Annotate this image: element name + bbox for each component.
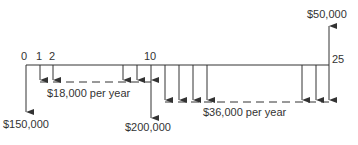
label-150000: $150,000 <box>3 118 49 130</box>
label-50000: $50,000 <box>307 8 347 20</box>
label-18000-per-year: $18,000 per year <box>47 87 130 99</box>
cash-flow-diagram <box>0 0 358 145</box>
tick-10: 10 <box>144 50 156 62</box>
tick-1: 1 <box>36 50 42 62</box>
label-36000-per-year: $36,000 per year <box>203 106 286 118</box>
tick-2: 2 <box>49 50 55 62</box>
label-200000: $200,000 <box>125 121 171 133</box>
tick-25: 25 <box>332 53 344 65</box>
tick-0: 0 <box>21 50 27 62</box>
